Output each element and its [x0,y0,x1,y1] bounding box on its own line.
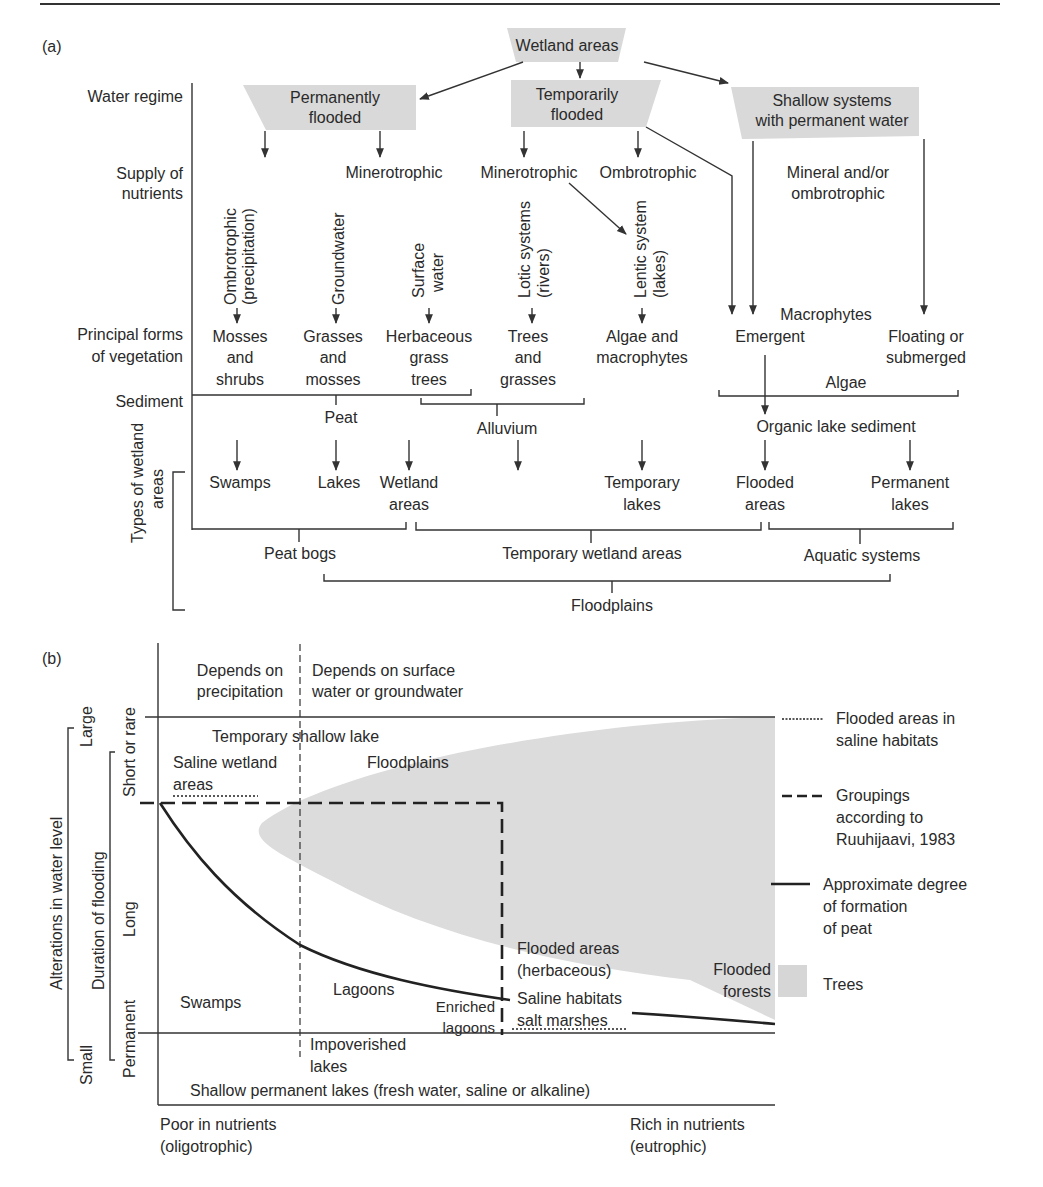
depends-precipitation: Depends on [197,662,283,679]
region-enriched-lagoons-2: lagoons [442,1019,495,1036]
legend-peat-label-2: of formation [823,898,907,915]
veg-grasses-3: mosses [305,371,360,388]
alluvium-bracket [421,398,584,404]
legend-groupings-label-3: Ruuhijaavi, 1983 [836,831,955,848]
row-label-vegetation: Principal forms [77,326,183,343]
veg-mosses: Mosses [212,328,267,345]
row-label-supply: Supply of [116,165,183,182]
type-lakes: Lakes [318,474,361,491]
y-label-short: Short or rare [121,707,138,797]
nutrient-minerotrophic-2: Minerotrophic [481,164,578,181]
nutrient-ombrotrophic: Ombrotrophic [600,164,697,181]
panel-b: (b) Depends on precipitation Depends on … [42,643,967,1155]
region-impoverished-lakes: Impoverished [310,1036,406,1053]
duration-bracket [110,752,115,1060]
types-bracket [173,472,185,610]
nutrient-mineral: Mineral and/or [787,164,890,181]
type-wetland: Wetland [380,474,438,491]
type-flooded-2: areas [745,496,785,513]
row-label-types-2: areas [149,469,166,509]
shallow-systems-label: Shallow systems [772,92,891,109]
veg-submerged: submerged [886,349,966,366]
legend-saline-label-2: saline habitats [836,732,938,749]
legend-peat-label: Approximate degree [823,876,967,893]
veg-herbaceous-3: trees [411,371,447,388]
root-label: Wetland areas [516,37,619,54]
source-lotic: Lotic systems [516,201,533,298]
y-label-long: Long [121,901,138,937]
veg-mosses-2: and [227,349,254,366]
veg-floating: Floating or [888,328,964,345]
permanently-flooded-label-2: flooded [309,109,362,126]
region-impoverished-lakes-2: lakes [310,1058,347,1075]
veg-grasses-2: and [320,349,347,366]
nutrient-minerotrophic-1: Minerotrophic [346,164,443,181]
sediment-organic: Organic lake sediment [756,418,916,435]
veg-herbaceous: Herbaceous [386,328,472,345]
peat-bogs-bracket [192,522,406,529]
region-lagoons: Lagoons [333,981,394,998]
source-groundwater: Groundwater [330,212,347,305]
veg-herbaceous-2: grass [409,349,448,366]
region-saline-habitats: Saline habitats [517,990,622,1007]
region-flooded-forests: Flooded [713,961,771,978]
y-label-permanent: Permanent [121,999,138,1078]
peat-bracket [192,389,471,395]
veg-trees: Trees [508,328,548,345]
veg-emergent: Emergent [735,328,805,345]
region-saline-wetland: Saline wetland [173,754,277,771]
depends-surface: Depends on surface [312,662,455,679]
depends-precipitation-2: precipitation [197,683,283,700]
nutrient-mineral-2: ombrotrophic [791,185,884,202]
legend: Flooded areas in saline habitats Groupin… [771,710,967,997]
veg-grasses: Grasses [303,328,363,345]
source-rivers: (rivers) [535,248,552,298]
source-surface: Surface [410,243,427,298]
region-temporary-shallow-lake: Temporary shallow lake [212,728,379,745]
panel-a: (a) Wetland areas Permanently flooded Te… [42,28,966,614]
veg-algae-2: macrophytes [596,349,688,366]
sediment-alluvium: Alluvium [477,420,537,437]
group-peat-bogs: Peat bogs [264,545,336,562]
y-label-alterations: Alterations in water level [48,817,65,990]
row-label-sediment: Sediment [115,393,183,410]
type-perm-lakes: Permanent [871,474,950,491]
veg-trees-2: and [515,349,542,366]
veg-macrophytes: Macrophytes [780,306,872,323]
x-label-oligotrophic: (oligotrophic) [160,1138,252,1155]
legend-groupings-label-2: according to [836,809,923,826]
temporarily-flooded-label: Temporarily [536,86,619,103]
legend-groupings-label: Groupings [836,787,910,804]
row-label-types: Types of wetland [129,423,146,543]
region-flooded-herbaceous: Flooded areas [517,940,619,957]
type-flooded: Flooded [736,474,794,491]
source-precipitation: (precipitation) [240,208,257,305]
y-label-large: Large [78,706,95,747]
group-aquatic: Aquatic systems [804,547,920,564]
veg-mosses-3: shrubs [216,371,264,388]
source-water: water [429,252,446,293]
arrow-root-permanent [420,62,523,99]
region-flooded-forests-2: forests [723,983,771,1000]
type-temp-lakes: Temporary [604,474,680,491]
region-swamps: Swamps [180,994,241,1011]
region-shallow-permanent-lakes: Shallow permanent lakes (fresh water, sa… [190,1082,590,1099]
region-saline-wetland-2: areas [173,776,213,793]
legend-trees-label: Trees [823,976,863,993]
x-label-rich: Rich in nutrients [630,1116,745,1133]
region-salt-marshes: salt marshes [517,1012,608,1029]
type-perm-lakes-2: lakes [891,496,928,513]
source-lentic: Lentic system [632,200,649,298]
peat-curve-right [632,1013,775,1024]
veg-algae-aquatic: Algae [826,374,867,391]
row-label-water-regime: Water regime [88,88,184,105]
region-floodplains: Floodplains [367,754,449,771]
y-label-duration: Duration of flooding [90,851,107,990]
panel-b-label: (b) [42,650,62,667]
veg-algae: Algae and [606,328,678,345]
wetland-classification-figure: (a) Wetland areas Permanently flooded Te… [0,0,1043,1187]
temporarily-flooded-label-2: flooded [551,106,604,123]
permanently-flooded-label: Permanently [290,89,380,106]
x-label-eutrophic: (eutrophic) [630,1138,706,1155]
region-enriched-lagoons: Enriched [436,998,495,1015]
